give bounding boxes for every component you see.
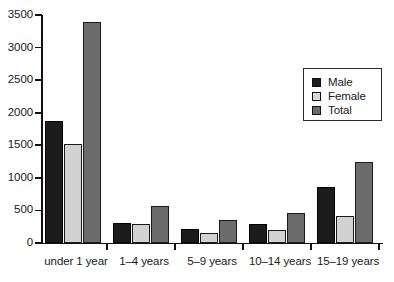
x-axis-tick-mark bbox=[310, 244, 312, 250]
legend-item-male: Male bbox=[312, 75, 353, 89]
bar-female-group-3 bbox=[200, 233, 218, 243]
bar-total-group-4 bbox=[287, 213, 305, 243]
bar-total-group-1 bbox=[83, 22, 101, 243]
x-axis-label-group-5: 15–19 years bbox=[306, 254, 390, 268]
plot-area bbox=[42, 15, 382, 243]
legend-swatch-female-icon bbox=[312, 92, 321, 101]
bar-total-group-3 bbox=[219, 220, 237, 243]
bar-male-group-5 bbox=[317, 187, 335, 243]
y-axis-tick-mark bbox=[35, 210, 42, 212]
y-axis-tick-mark bbox=[35, 144, 42, 146]
y-axis-tick-label: 1500 bbox=[8, 138, 33, 151]
y-axis-tick-label: 500 bbox=[14, 203, 33, 216]
y-axis-tick-mark bbox=[35, 14, 42, 16]
y-axis-tick-label: 1000 bbox=[8, 171, 33, 184]
y-axis-tick-mark bbox=[35, 242, 42, 244]
chart-legend: Male Female Total bbox=[303, 68, 382, 121]
legend-label-male: Male bbox=[328, 76, 353, 88]
x-axis-tick-mark bbox=[174, 244, 176, 250]
bar-female-group-2 bbox=[132, 224, 150, 243]
y-axis-tick-mark bbox=[35, 112, 42, 114]
bar-total-group-5 bbox=[355, 162, 373, 243]
bar-male-group-1 bbox=[45, 121, 63, 243]
bar-female-group-5 bbox=[336, 216, 354, 243]
y-axis-tick-label: 2000 bbox=[8, 106, 33, 119]
y-axis-tick-mark bbox=[35, 79, 42, 81]
bar-male-group-3 bbox=[181, 229, 199, 243]
bar-total-group-2 bbox=[151, 206, 169, 243]
legend-swatch-male-icon bbox=[312, 78, 321, 87]
bar-female-group-1 bbox=[64, 144, 82, 243]
legend-item-total: Total bbox=[312, 103, 352, 117]
y-axis-tick-label: 3500 bbox=[8, 8, 33, 21]
legend-swatch-total-icon bbox=[312, 106, 321, 115]
legend-item-female: Female bbox=[312, 89, 366, 103]
bar-female-group-4 bbox=[268, 230, 286, 243]
x-axis-tick-mark bbox=[242, 244, 244, 250]
y-axis-tick-label: 2500 bbox=[8, 73, 33, 86]
y-axis-tick-mark bbox=[35, 47, 42, 49]
y-axis-tick-label: 3000 bbox=[8, 41, 33, 54]
bar-male-group-2 bbox=[113, 223, 131, 243]
x-axis-tick-mark bbox=[106, 244, 108, 250]
bar-male-group-4 bbox=[249, 224, 267, 243]
legend-label-female: Female bbox=[328, 90, 366, 102]
legend-label-total: Total bbox=[328, 104, 352, 116]
y-axis-tick-mark bbox=[35, 177, 42, 179]
bar-chart: 0500100015002000250030003500 under 1 yea… bbox=[0, 0, 394, 282]
y-axis-tick-label: 0 bbox=[27, 236, 33, 249]
x-axis-tick-mark bbox=[378, 244, 380, 250]
